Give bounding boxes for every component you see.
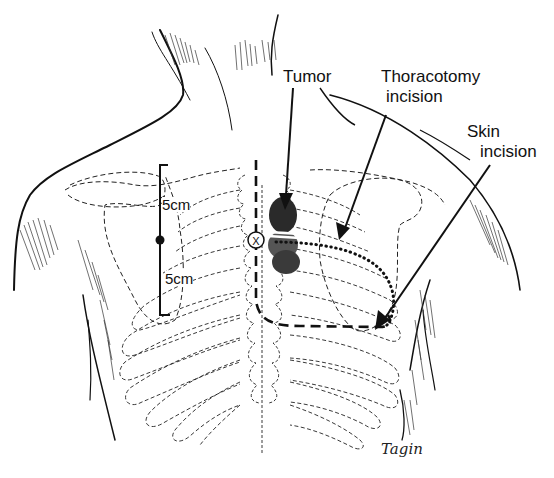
right-scapula xyxy=(319,178,421,331)
tumor-mass xyxy=(268,197,300,274)
left-spine-of-scapula xyxy=(68,195,165,207)
right-armpit xyxy=(410,280,430,370)
scale-upper-label: 5cm xyxy=(162,197,190,212)
left-scapula xyxy=(70,172,183,324)
scale-midpoint-dot xyxy=(156,236,165,245)
skin-arrow-line xyxy=(385,165,490,318)
thoracotomy-label-line2: incision xyxy=(386,88,443,105)
skin-incision-label-line2: incision xyxy=(480,143,537,160)
skin-to-shoulder-curve xyxy=(420,130,470,160)
left-clavicle xyxy=(65,168,240,190)
left-armpit xyxy=(83,295,115,440)
left-neck-inner xyxy=(152,32,190,100)
skin-incision-label-line1: Skin xyxy=(467,123,500,140)
neck-center-line xyxy=(205,48,232,130)
right-arm xyxy=(400,390,404,440)
scale-lower-label: 5cm xyxy=(165,271,193,286)
x-marker-glyph: X xyxy=(252,235,260,247)
artist-signature: Tagin xyxy=(381,440,423,458)
left-armpit-2 xyxy=(88,320,91,400)
tumor-to-thoracotomy-curve xyxy=(320,88,355,125)
tumor-label: Tumor xyxy=(283,68,332,85)
medical-illustration: X Tumor Thoracotomy incision Skin incisi… xyxy=(0,0,554,478)
ribs xyxy=(120,190,401,449)
left-neck-outline xyxy=(14,30,183,290)
tumor-arrow-line xyxy=(286,88,293,195)
right-clavicle xyxy=(310,170,445,205)
thoracotomy-label-line1: Thoracotomy xyxy=(381,68,480,85)
